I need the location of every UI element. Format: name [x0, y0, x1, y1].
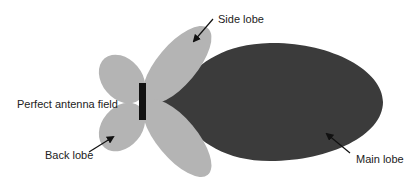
back-lobe-label: Back lobe [45, 149, 93, 161]
perfect-antenna-field-label: Perfect antenna field [17, 98, 118, 110]
antenna-element [139, 83, 146, 120]
side-lobe-label: Side lobe [218, 13, 264, 25]
antenna-radiation-pattern-diagram: Side lobe Perfect antenna field Back lob… [0, 0, 413, 186]
main-lobe-label: Main lobe [356, 153, 404, 165]
